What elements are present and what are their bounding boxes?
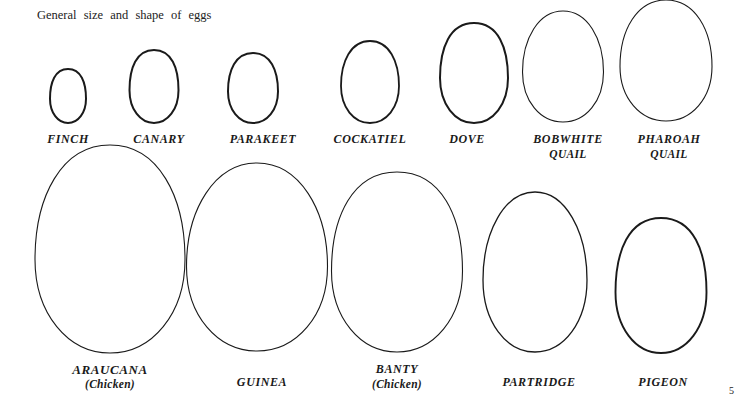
egg-outline-banty	[332, 172, 463, 352]
egg-label-canary: CANARY	[133, 132, 184, 147]
egg-outline-partridge	[483, 192, 587, 352]
egg-label-guinea: GUINEA	[237, 375, 287, 390]
egg-subtitle: QUAIL	[533, 147, 602, 162]
egg-label-parakeet: PARAKEET	[230, 132, 297, 147]
egg-name: FINCH	[47, 132, 89, 146]
egg-outline-guinea	[187, 163, 328, 351]
egg-outline-bobwhite	[523, 11, 604, 122]
egg-label-partridge: PARTRIDGE	[502, 375, 575, 390]
egg-name: CANARY	[133, 132, 184, 146]
egg-subtitle: (Chicken)	[372, 377, 422, 392]
egg-label-cockatiel: COCKATIEL	[334, 132, 407, 147]
egg-name: PARTRIDGE	[502, 375, 575, 389]
egg-name: COCKATIEL	[334, 132, 407, 146]
egg-name: DOVE	[449, 132, 485, 146]
egg-label-dove: DOVE	[449, 132, 485, 147]
egg-name: GUINEA	[237, 375, 287, 389]
egg-outline-finch	[50, 69, 86, 123]
egg-outline-canary	[130, 50, 179, 123]
egg-name: PARAKEET	[230, 132, 297, 146]
egg-label-pharoah: PHAROAHQUAIL	[638, 132, 701, 162]
egg-subtitle: QUAIL	[638, 147, 701, 162]
egg-label-finch: FINCH	[47, 132, 89, 147]
egg-name: PHAROAH	[638, 132, 701, 146]
egg-label-banty: BANTY(Chicken)	[372, 362, 422, 392]
egg-outline-pigeon	[616, 218, 707, 353]
egg-outline-parakeet	[228, 53, 278, 123]
egg-label-araucana: ARAUCANA(Chicken)	[72, 362, 148, 392]
egg-name: PIGEON	[638, 375, 688, 389]
egg-subtitle: (Chicken)	[72, 377, 148, 392]
egg-outline-pharoah	[620, 0, 712, 121]
eggs-illustration	[0, 0, 741, 406]
egg-outline-araucana	[35, 145, 185, 353]
egg-name: ARAUCANA	[72, 362, 148, 377]
egg-label-bobwhite: BOBWHITEQUAIL	[533, 132, 602, 162]
page-number: 5	[729, 385, 734, 396]
egg-outline-cockatiel	[341, 41, 399, 123]
egg-outline-dove	[440, 23, 508, 123]
egg-label-pigeon: PIGEON	[638, 375, 688, 390]
egg-name: BANTY	[376, 362, 418, 376]
egg-name: BOBWHITE	[533, 132, 602, 146]
